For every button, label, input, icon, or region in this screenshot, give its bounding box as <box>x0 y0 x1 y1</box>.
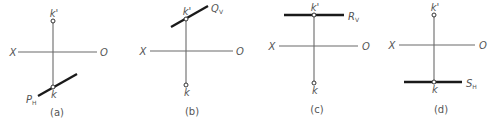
panel-d: XOk'kSH(d) <box>388 2 487 115</box>
panel-caption: (a) <box>50 107 64 118</box>
panel-c: XOk'kRV(c) <box>268 2 370 115</box>
axis-x-label: X <box>268 41 277 52</box>
point-k-prime-label: k' <box>431 2 440 13</box>
trace-label: QV <box>211 3 224 15</box>
projection-diagram: XOk'kPH(a)XOk'kQV(b)XOk'kRV(c)XOk'kSH(d) <box>0 0 492 127</box>
trace-label: PH <box>26 94 37 106</box>
panel-b: XOk'kQV(b) <box>139 3 244 117</box>
point-k-prime-label: k' <box>311 2 320 13</box>
trace-label: SH <box>466 78 477 90</box>
point-k-prime-label: k' <box>183 6 192 17</box>
axis-o-label: O <box>362 41 370 52</box>
axis-o-label: O <box>100 47 108 58</box>
axis-x-label: X <box>9 47 18 58</box>
point-k-label: k <box>184 87 191 98</box>
panel-caption: (b) <box>185 106 199 117</box>
point-k-label: k <box>51 89 58 100</box>
panel-a: XOk'kPH(a) <box>9 8 108 118</box>
plane-trace-line <box>38 74 77 96</box>
point-k-label: k <box>432 84 439 95</box>
point-k-prime <box>312 13 316 17</box>
point-k-prime <box>51 19 55 23</box>
point-k-prime <box>432 13 436 17</box>
panel-caption: (c) <box>310 104 323 115</box>
point-k-label: k <box>312 85 319 96</box>
axis-o-label: O <box>236 46 244 57</box>
axis-x-label: X <box>388 40 397 51</box>
axis-x-label: X <box>139 46 148 57</box>
point-k-prime-label: k' <box>50 8 59 19</box>
trace-label: RV <box>348 11 360 23</box>
panel-caption: (d) <box>434 104 448 115</box>
point-k-prime <box>184 17 188 21</box>
axis-o-label: O <box>479 40 487 51</box>
